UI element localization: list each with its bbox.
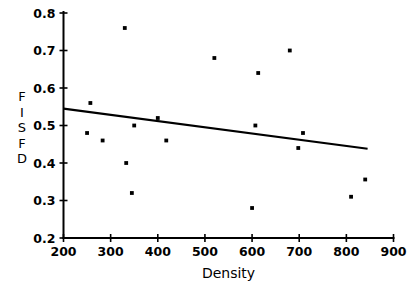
plot-canvas: 200300400500600700800900 0.20.30.40.50.6… (0, 0, 418, 285)
y-tick-label-3: 0.5 (33, 118, 55, 133)
x-tick-label-2: 400 (145, 244, 171, 259)
data-point-0 (85, 131, 89, 135)
x-tick-label-1: 300 (98, 244, 124, 259)
data-point-15 (301, 131, 305, 135)
data-point-2 (101, 139, 105, 143)
x-tick-label-0: 200 (50, 244, 76, 259)
x-axis-title-text: Density (202, 265, 255, 281)
y-axis-title-char-2: S (18, 120, 26, 135)
data-point-3 (123, 26, 127, 30)
y-axis-title-char-1: I (20, 105, 24, 120)
regression-line (64, 109, 368, 149)
data-point-11 (253, 124, 257, 128)
x-tick-label-6: 800 (333, 244, 359, 259)
y-tick-label-0: 0.2 (33, 231, 55, 246)
y-axis-title-char-3: F (18, 136, 25, 151)
y-axis-title-char-4: D (17, 151, 27, 166)
y-tick-label-2: 0.4 (33, 156, 55, 171)
y-axis-title: FISFD (17, 89, 27, 166)
axes (64, 12, 394, 238)
trend-line (64, 109, 368, 149)
data-point-5 (130, 191, 134, 195)
data-point-1 (88, 101, 92, 105)
x-tick-label-7: 900 (380, 244, 406, 259)
data-point-14 (296, 146, 300, 150)
data-point-7 (156, 116, 160, 120)
y-tick-label-5: 0.7 (33, 43, 55, 58)
data-point-17 (363, 178, 367, 182)
tick-marks (60, 13, 394, 242)
x-axis-title: Density (202, 265, 255, 281)
y-axis-title-char-0: F (18, 89, 25, 104)
x-tick-labels: 200300400500600700800900 (50, 244, 406, 259)
y-tick-label-4: 0.6 (33, 81, 55, 96)
x-tick-label-4: 600 (239, 244, 265, 259)
x-tick-label-3: 500 (192, 244, 218, 259)
y-tick-label-6: 0.8 (33, 6, 55, 21)
data-point-8 (164, 139, 168, 143)
y-tick-labels: 0.20.30.40.50.60.70.8 (33, 6, 55, 246)
x-tick-label-5: 700 (286, 244, 312, 259)
data-point-9 (212, 56, 216, 60)
data-point-6 (132, 124, 136, 128)
data-point-4 (124, 161, 128, 165)
data-point-13 (288, 49, 292, 53)
data-point-10 (250, 206, 254, 210)
data-point-12 (256, 71, 260, 75)
y-tick-label-1: 0.3 (33, 193, 55, 208)
scatter-plot-figure: 200300400500600700800900 0.20.30.40.50.6… (0, 0, 418, 285)
data-point-16 (349, 195, 353, 199)
